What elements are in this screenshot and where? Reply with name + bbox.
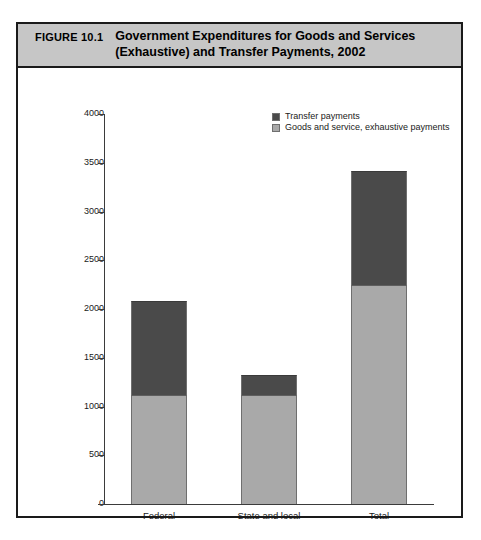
y-tick-mark [98,455,104,456]
y-tick-500: 500 [18,455,104,456]
bar-segment-goods[interactable] [131,395,187,504]
y-tick-mark [98,163,104,164]
y-tick-mark [98,504,104,505]
x-tick-label: State and local [209,510,329,521]
y-tick-3500: 3500 [18,163,104,164]
bar-segment-transfer[interactable] [351,171,407,285]
y-tick-3000: 3000 [18,212,104,213]
y-tick-1500: 1500 [18,358,104,359]
bar-segment-transfer[interactable] [131,301,187,395]
chart-plot-area: Transfer payments Goods and service, exh… [18,68,461,516]
y-tick-2000: 2000 [18,309,104,310]
bar-total[interactable] [351,114,407,504]
figure-title-line-2: (Exhaustive) and Transfer Payments, 2002 [115,45,415,61]
figure-number-label: FIGURE 10.1 [35,31,103,43]
bar-segment-goods[interactable] [241,395,297,504]
x-tick-label: Total [319,510,439,521]
x-tick-label: Federal [99,510,219,521]
bar-federal[interactable] [131,114,187,504]
y-tick-mark [98,114,104,115]
y-tick-2500: 2500 [18,260,104,261]
bar-segment-transfer[interactable] [241,375,297,395]
figure-title: Government Expenditures for Goods and Se… [115,29,425,60]
y-tick-mark [98,260,104,261]
figure-title-line-1: Government Expenditures for Goods and Se… [115,29,415,45]
figure-container: FIGURE 10.1 Government Expenditures for … [16,22,463,518]
y-axis-line [104,114,105,504]
y-tick-mark [98,309,104,310]
bar-segment-goods[interactable] [351,285,407,504]
figure-header: FIGURE 10.1 Government Expenditures for … [18,24,461,68]
y-tick-4000: 4000 [18,114,104,115]
y-tick-1000: 1000 [18,407,104,408]
x-axis-line [104,504,434,505]
y-tick-mark [98,407,104,408]
y-tick-0: 0 [18,504,104,505]
y-tick-mark [98,212,104,213]
bar-state-and-local[interactable] [241,114,297,504]
y-tick-mark [98,358,104,359]
